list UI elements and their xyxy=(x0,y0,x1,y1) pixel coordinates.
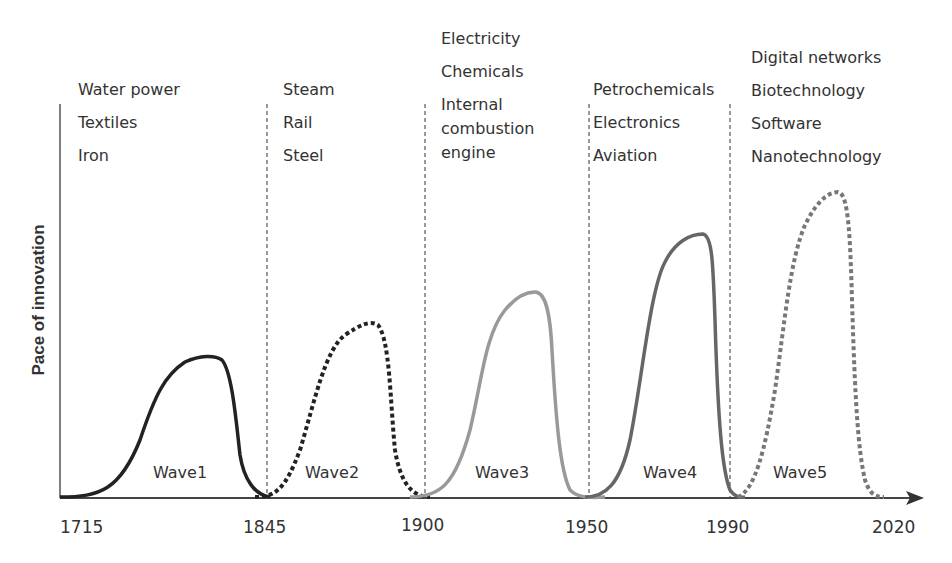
tick-1990: 1990 xyxy=(706,517,749,537)
svg-text:Biotechnology: Biotechnology xyxy=(751,81,865,100)
svg-text:Electronics: Electronics xyxy=(593,113,680,132)
tick-2020: 2020 xyxy=(872,517,915,537)
wave5-curve xyxy=(738,192,884,497)
tick-1900: 1900 xyxy=(401,515,444,535)
svg-text:Nanotechnology: Nanotechnology xyxy=(751,147,882,166)
era-dividers xyxy=(267,104,730,498)
wave1-label: Wave1 xyxy=(153,463,207,482)
svg-text:Chemicals: Chemicals xyxy=(441,62,524,81)
wave4-innovations: Petrochemicals Electronics Aviation xyxy=(593,80,714,165)
svg-text:combustion: combustion xyxy=(441,119,534,138)
svg-text:engine: engine xyxy=(441,143,496,162)
innovation-waves-chart: Pace of innovation Wave1 Wave2 Wave3 Wav… xyxy=(0,0,952,563)
svg-text:Petrochemicals: Petrochemicals xyxy=(593,80,714,99)
svg-text:Digital networks: Digital networks xyxy=(751,48,881,67)
wave1-innovations: Water power Textiles Iron xyxy=(77,80,180,165)
tick-1950: 1950 xyxy=(565,517,608,537)
wave5-innovations: Digital networks Biotechnology Software … xyxy=(751,48,882,166)
tick-1845: 1845 xyxy=(243,517,286,537)
svg-text:Textiles: Textiles xyxy=(77,113,137,132)
svg-text:Electricity: Electricity xyxy=(441,29,520,48)
svg-text:Water power: Water power xyxy=(78,80,180,99)
svg-text:Internal: Internal xyxy=(441,95,503,114)
wave3-label: Wave3 xyxy=(475,463,529,482)
wave5-label: Wave5 xyxy=(773,463,827,482)
svg-text:Rail: Rail xyxy=(283,113,312,132)
svg-text:Steam: Steam xyxy=(283,80,335,99)
tick-1715: 1715 xyxy=(60,517,103,537)
y-axis-label: Pace of innovation xyxy=(29,224,48,375)
wave2-label: Wave2 xyxy=(305,463,359,482)
svg-text:Software: Software xyxy=(751,114,822,133)
svg-text:Aviation: Aviation xyxy=(593,146,657,165)
svg-text:Steel: Steel xyxy=(283,146,324,165)
svg-text:Iron: Iron xyxy=(78,146,109,165)
wave3-innovations: Electricity Chemicals Internal combustio… xyxy=(441,29,534,162)
wave4-curve xyxy=(585,234,745,497)
wave4-label: Wave4 xyxy=(643,463,697,482)
wave2-innovations: Steam Rail Steel xyxy=(283,80,335,165)
